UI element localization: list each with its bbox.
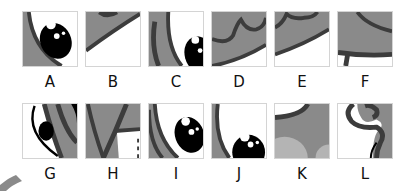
tile-e[interactable] [274,11,330,67]
tile-c[interactable] [148,11,204,67]
tile-e-image [275,12,329,66]
label-i: I [148,165,204,183]
label-g: G [22,165,78,183]
corner-decoration [0,175,24,191]
tile-a-image [23,12,77,66]
tile-f-image [338,12,392,66]
tile-g[interactable] [22,103,78,159]
tile-g-image [23,104,77,158]
label-b: B [85,73,141,91]
label-h: H [85,165,141,183]
tile-j-image [212,104,266,158]
label-c: C [148,73,204,91]
label-l: L [337,165,393,183]
tile-k[interactable] [274,103,330,159]
tile-b[interactable] [85,11,141,67]
label-e: E [274,73,330,91]
tile-i[interactable] [148,103,204,159]
tile-d-image [212,12,266,66]
label-d: D [211,73,267,91]
label-a: A [22,73,78,91]
tile-c-image [149,12,203,66]
tile-i-image [149,104,203,158]
tile-f[interactable] [337,11,393,67]
tile-a[interactable] [22,11,78,67]
label-f: F [337,73,393,91]
tile-l[interactable] [337,103,393,159]
tile-b-image [86,12,140,66]
label-k: K [274,165,330,183]
tile-h[interactable] [85,103,141,159]
tile-j[interactable] [211,103,267,159]
tile-k-image [275,104,329,158]
label-j: J [211,165,267,183]
tile-l-image [338,104,392,158]
tile-d[interactable] [211,11,267,67]
tile-h-image [86,104,140,158]
